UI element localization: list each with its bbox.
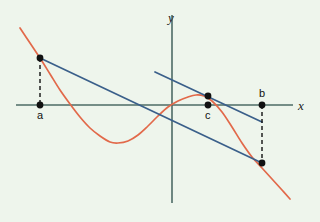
mean-value-theorem-figure: y x a b c (0, 0, 320, 222)
point-c-on-axis (205, 102, 212, 109)
function-curve (20, 28, 290, 199)
lines-group (40, 58, 262, 163)
point-f-of-b (259, 160, 266, 167)
axes-group (16, 15, 293, 203)
secant-line (40, 58, 262, 163)
point-label-a: a (37, 110, 43, 121)
point-a-on-axis (37, 102, 44, 109)
point-label-c: c (205, 110, 211, 121)
y-axis-label: y (168, 11, 174, 24)
function-curve-group (20, 28, 290, 199)
point-f-of-c (205, 93, 212, 100)
point-b-on-axis (259, 102, 266, 109)
x-axis-label: x (298, 99, 304, 112)
point-f-of-a (37, 55, 44, 62)
point-label-b: b (259, 88, 265, 99)
plot-canvas (0, 0, 320, 222)
